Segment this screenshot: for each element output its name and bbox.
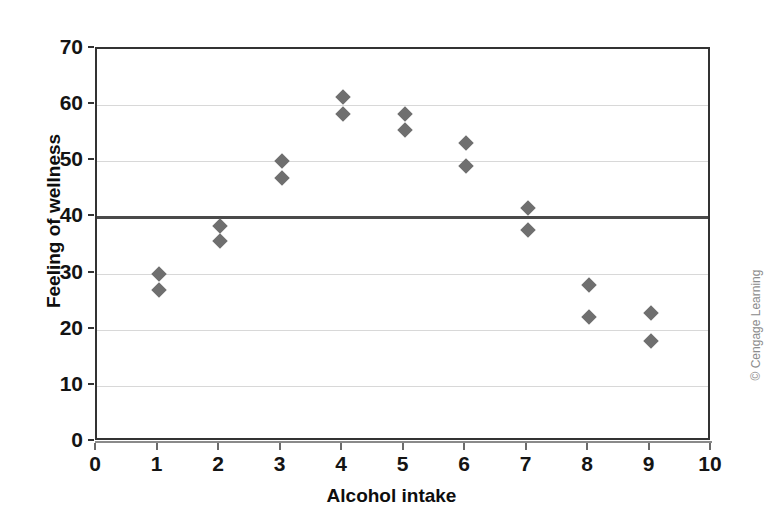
x-tick-label-8: 8 [567,453,607,474]
x-tick-label-1: 1 [137,453,177,474]
data-point [581,277,597,293]
data-point [212,233,228,249]
data-point [274,154,290,170]
x-tick-mark-3 [279,443,281,450]
y-tick-mark-0 [88,439,94,441]
x-tick-label-5: 5 [383,453,423,474]
x-tick-label-6: 6 [444,453,484,474]
x-tick-label-2: 2 [198,453,238,474]
data-point [212,218,228,234]
data-point [397,123,413,139]
x-tick-label-3: 3 [260,453,300,474]
x-tick-mark-1 [156,443,158,450]
gridline-60 [97,105,708,106]
data-point [520,200,536,216]
x-tick-mark-9 [648,443,650,450]
y-axis-title: Feeling of wellness [43,101,65,341]
x-tick-mark-5 [402,443,404,450]
gridline-20 [97,330,708,331]
data-point [274,170,290,186]
gridline-50 [97,161,708,162]
y-tick-mark-30 [88,271,94,273]
y-tick-label-10: 10 [23,373,83,394]
x-tick-mark-8 [586,443,588,450]
data-point [643,333,659,349]
y-tick-label-70: 70 [23,36,83,57]
gridline-30 [97,274,708,275]
x-tick-mark-2 [217,443,219,450]
data-point [581,309,597,325]
data-point [151,283,167,299]
data-point [520,222,536,238]
x-tick-label-10: 10 [690,453,730,474]
x-tick-label-4: 4 [321,453,361,474]
x-axis: 012345678910 [95,441,712,477]
y-tick-mark-60 [88,102,94,104]
y-tick-label-0: 0 [23,429,83,450]
data-point [643,305,659,321]
data-point [151,266,167,282]
x-axis-title: Alcohol intake [0,485,783,507]
x-tick-label-0: 0 [75,453,115,474]
x-tick-mark-0 [94,443,96,450]
reference-line-40 [97,216,708,219]
x-tick-mark-7 [525,443,527,450]
y-tick-mark-70 [88,46,94,48]
y-tick-mark-20 [88,327,94,329]
y-tick-mark-10 [88,383,94,385]
data-point [335,106,351,122]
x-tick-mark-4 [340,443,342,450]
data-point [335,89,351,105]
copyright-credit: © Cengage Learning [749,245,763,405]
plot-area [95,47,710,440]
scatter-plot-figure: 010203040506070 012345678910 Feeling of … [0,0,783,523]
y-tick-mark-40 [88,214,94,216]
x-tick-label-9: 9 [629,453,669,474]
x-tick-mark-6 [463,443,465,450]
data-point [458,135,474,151]
x-tick-mark-10 [709,443,711,450]
x-tick-label-7: 7 [506,453,546,474]
gridline-10 [97,386,708,387]
y-tick-mark-50 [88,158,94,160]
data-point [397,106,413,122]
